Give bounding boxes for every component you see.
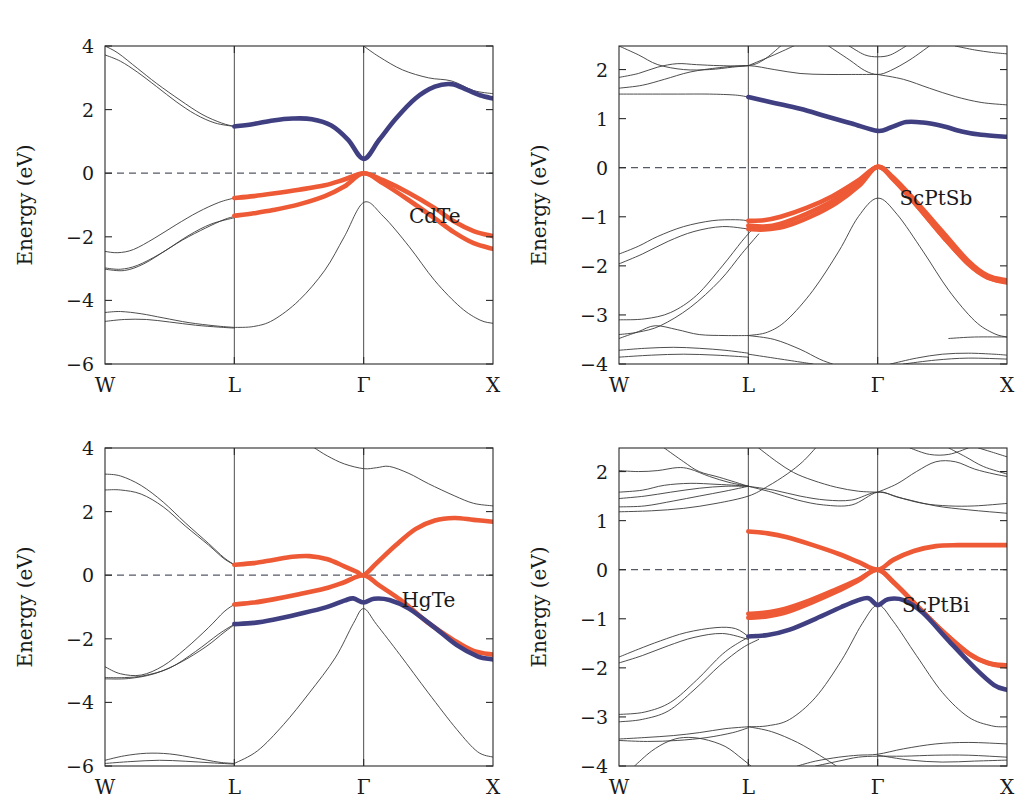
band-curve xyxy=(664,448,748,486)
band-curve xyxy=(955,46,1007,54)
y-tick-label: 0 xyxy=(82,564,94,586)
y-tick-label: 2 xyxy=(596,59,608,81)
x-tick-label-X: X xyxy=(486,373,501,397)
y-tick-label: −3 xyxy=(580,706,608,728)
band-curve xyxy=(619,639,759,721)
band-curve xyxy=(797,742,1007,766)
band-curve xyxy=(105,490,234,565)
band-curve xyxy=(105,624,234,678)
band-curve xyxy=(619,633,748,662)
x-tick-label-W: W xyxy=(609,373,630,397)
y-tick-label: 1 xyxy=(596,510,608,532)
y-tick-label: −4 xyxy=(580,755,608,777)
y-tick-label: 0 xyxy=(596,559,608,581)
band-curve xyxy=(105,625,234,679)
x-tick-label-L: L xyxy=(742,373,755,397)
band-curve xyxy=(619,354,748,357)
material-label-hgte: HgTe xyxy=(401,588,455,612)
band-curve xyxy=(829,46,930,74)
band-curve xyxy=(105,55,234,127)
x-tick-label-Γ: Γ xyxy=(357,373,371,397)
x-axis-group: WLΓX xyxy=(609,46,1015,397)
y-tick-label: −1 xyxy=(580,206,608,228)
y-tick-label: −6 xyxy=(66,353,94,375)
x-tick-label-Γ: Γ xyxy=(357,775,371,799)
band-curve xyxy=(878,74,1007,104)
y-tick-label: 0 xyxy=(596,157,608,179)
y-axis-title: Energy (eV) xyxy=(527,546,551,667)
band-curve xyxy=(619,46,781,77)
band-curve xyxy=(364,46,493,94)
band-curve xyxy=(748,727,836,766)
x-tick-label-L: L xyxy=(742,775,755,799)
band-curve xyxy=(979,448,1007,457)
y-tick-label: 2 xyxy=(596,461,608,483)
y-tick-label: 2 xyxy=(82,99,94,121)
panel-cdte-svg: 420−2−4−6WLΓXEnergy (eV)CdTe xyxy=(0,0,514,403)
band-curve xyxy=(748,46,793,66)
band-structure-figure: 420−2−4−6WLΓXEnergy (eV)CdTe 210−1−2−3−4… xyxy=(0,0,1028,805)
y-tick-label: −3 xyxy=(580,304,608,326)
x-axis-group: WLΓX xyxy=(609,448,1015,799)
x-tick-label-X: X xyxy=(1000,373,1015,397)
panel-hgte-svg: 420−2−4−6WLΓXEnergy (eV)HgTe xyxy=(0,402,514,805)
band-curve xyxy=(105,218,234,271)
band-curve xyxy=(619,486,748,498)
y-tick-label: −4 xyxy=(580,353,608,375)
band-curve xyxy=(105,216,234,269)
y-tick-label: 0 xyxy=(82,162,94,184)
x-tick-label-W: W xyxy=(95,775,116,799)
y-tick-label: −2 xyxy=(580,657,608,679)
y-axis-title: Energy (eV) xyxy=(13,144,37,265)
band-curve xyxy=(619,634,755,714)
y-tick-label: −4 xyxy=(66,691,94,713)
y-tick-label: −1 xyxy=(580,608,608,630)
band-curve xyxy=(315,448,493,506)
x-tick-label-X: X xyxy=(486,775,501,799)
y-axis-title: Energy (eV) xyxy=(13,546,37,667)
band-curve xyxy=(619,227,755,320)
y-tick-label: 4 xyxy=(82,35,94,57)
y-tick-label: 2 xyxy=(82,501,94,523)
band-curve xyxy=(105,198,234,253)
band-curve xyxy=(878,461,1007,493)
band-curve xyxy=(748,336,832,364)
material-label-scptsb: ScPtSb xyxy=(899,186,972,210)
y-tick-label: −2 xyxy=(66,628,94,650)
y-tick-label: 1 xyxy=(596,108,608,130)
panel-scptsb-svg: 210−1−2−3−4WLΓXEnergy (eV)ScPtSb xyxy=(514,0,1028,403)
x-tick-label-L: L xyxy=(228,775,241,799)
band-curve xyxy=(619,326,748,339)
y-tick-label: −2 xyxy=(580,255,608,277)
material-label-scptbi: ScPtBi xyxy=(902,593,970,617)
x-tick-label-Γ: Γ xyxy=(871,373,885,397)
panel-cdte: 420−2−4−6WLΓXEnergy (eV)CdTe xyxy=(0,0,514,403)
x-tick-label-W: W xyxy=(609,775,630,799)
y-tick-label: −4 xyxy=(66,289,94,311)
band-curve xyxy=(105,46,234,126)
band-curve xyxy=(910,448,968,455)
y-tick-label: 4 xyxy=(82,437,94,459)
panel-scptbi-svg: 210−1−2−3−4WLΓXEnergy (eV)ScPtBi xyxy=(514,402,1028,805)
x-tick-label-X: X xyxy=(1000,775,1015,799)
band-curve xyxy=(619,94,748,97)
band-curve xyxy=(748,354,813,364)
band-curve xyxy=(619,448,816,512)
band-curve xyxy=(619,627,748,657)
panel-scptbi: 210−1−2−3−4WLΓXEnergy (eV)ScPtBi xyxy=(514,402,1028,805)
material-label-cdte: CdTe xyxy=(409,204,461,228)
band-curve xyxy=(949,337,1007,339)
x-tick-label-Γ: Γ xyxy=(871,775,885,799)
band-curve xyxy=(759,448,878,492)
panel-scptsb: 210−1−2−3−4WLΓXEnergy (eV)ScPtSb xyxy=(514,0,1028,403)
x-tick-label-W: W xyxy=(95,373,116,397)
y-tick-label: −6 xyxy=(66,755,94,777)
y-axis-title: Energy (eV) xyxy=(527,144,551,265)
y-axis-group: 210−1−2−3−4 xyxy=(580,461,1007,777)
x-axis-group: WLΓX xyxy=(95,448,501,799)
x-tick-label-L: L xyxy=(228,373,241,397)
band-curve xyxy=(904,358,1007,364)
y-tick-label: −2 xyxy=(66,226,94,248)
band-curve xyxy=(105,760,234,764)
panel-hgte: 420−2−4−6WLΓXEnergy (eV)HgTe xyxy=(0,402,514,805)
